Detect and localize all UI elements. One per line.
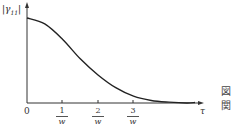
side-glyph-2: 関	[221, 97, 231, 112]
x-tick-label-1: 1w	[56, 107, 68, 124]
x-tick-label-2: 2w	[92, 107, 104, 124]
y-axis-arrow-icon	[25, 2, 29, 8]
x-tick-label-3: 3w	[127, 107, 139, 124]
chart-canvas	[0, 0, 233, 124]
x-axis-arrow-icon	[198, 101, 204, 105]
y-axis-label: |γ11|	[2, 4, 21, 16]
side-glyph-1: 図	[221, 83, 231, 98]
x-axis-label: τ	[200, 107, 205, 116]
x-origin-label: 0	[24, 107, 30, 116]
gamma-curve	[27, 18, 195, 103]
